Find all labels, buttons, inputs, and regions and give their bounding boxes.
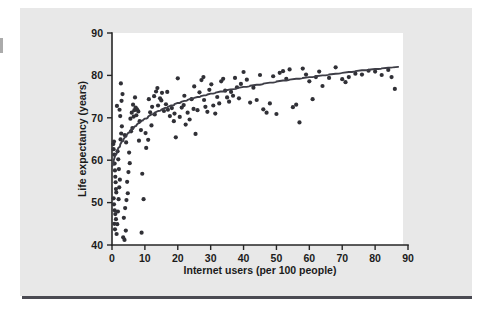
data-point	[233, 76, 237, 80]
data-point	[137, 139, 141, 143]
data-point	[258, 73, 262, 77]
x-tick-label: 30	[205, 252, 217, 264]
data-point	[193, 132, 197, 136]
data-point	[182, 94, 186, 98]
data-point	[128, 161, 132, 165]
data-point	[334, 65, 338, 69]
x-tick-label: 60	[303, 252, 315, 264]
x-tick-label: 50	[271, 252, 283, 264]
data-point	[202, 98, 206, 102]
data-point	[188, 117, 192, 121]
data-point	[307, 79, 311, 83]
data-point	[237, 96, 241, 100]
data-point	[122, 238, 126, 242]
data-point	[117, 185, 121, 189]
data-point	[178, 115, 182, 119]
data-point	[160, 91, 164, 95]
data-point	[274, 112, 278, 116]
data-point	[119, 99, 123, 103]
data-point	[140, 172, 144, 176]
data-point	[172, 119, 176, 123]
data-point	[174, 135, 178, 139]
data-point	[114, 180, 118, 184]
data-point	[172, 111, 176, 115]
x-tick-label: 40	[238, 252, 250, 264]
data-point	[159, 98, 163, 102]
data-point	[131, 103, 135, 107]
data-point	[320, 84, 324, 88]
y-tick-label: 50	[91, 196, 103, 208]
data-point	[291, 105, 295, 109]
data-point	[143, 131, 147, 135]
data-point	[304, 72, 308, 76]
data-point	[115, 232, 119, 236]
data-point	[168, 114, 172, 118]
data-point	[245, 78, 249, 82]
data-point	[115, 222, 119, 226]
data-point	[139, 128, 143, 132]
data-point	[201, 75, 205, 79]
data-point	[239, 82, 243, 86]
data-point	[301, 67, 305, 71]
y-tick-label: 40	[91, 239, 103, 251]
data-point	[221, 77, 225, 81]
data-point	[225, 95, 229, 99]
data-point	[215, 95, 219, 99]
data-point	[184, 122, 188, 126]
data-point	[152, 94, 156, 98]
data-point	[124, 140, 128, 144]
x-tick-label: 90	[402, 252, 414, 264]
data-point	[116, 197, 120, 201]
data-point	[122, 216, 126, 220]
data-point	[114, 217, 118, 221]
data-point	[217, 101, 221, 105]
data-point	[227, 100, 231, 104]
data-point	[311, 97, 315, 101]
data-point	[116, 157, 120, 161]
data-point	[141, 197, 145, 201]
data-point	[241, 70, 245, 74]
data-point	[112, 196, 116, 200]
data-point	[327, 76, 331, 80]
data-point	[209, 82, 213, 86]
data-point	[211, 103, 215, 107]
data-point	[123, 206, 127, 210]
data-point	[205, 110, 209, 114]
data-point	[264, 111, 268, 115]
data-point	[112, 139, 116, 143]
data-point	[149, 123, 153, 127]
data-point	[165, 90, 169, 94]
data-point	[126, 191, 130, 195]
y-axis: 405060708090	[91, 27, 112, 251]
x-tick-label: 10	[139, 252, 151, 264]
data-point	[116, 209, 120, 213]
data-point	[119, 81, 123, 85]
data-point	[117, 167, 121, 171]
x-tick-label: 20	[172, 252, 184, 264]
data-point	[231, 94, 235, 98]
data-point	[186, 111, 190, 115]
x-axis-title: Internet users (per 100 people)	[184, 264, 337, 276]
data-point	[176, 76, 180, 80]
data-point	[124, 228, 128, 232]
data-point	[347, 75, 351, 79]
data-point	[197, 90, 201, 94]
data-point	[146, 138, 150, 142]
data-point	[115, 104, 119, 108]
x-tick-label: 80	[369, 252, 381, 264]
data-point	[113, 168, 117, 172]
data-point	[203, 105, 207, 109]
data-point	[281, 69, 285, 73]
data-point	[113, 175, 117, 179]
data-point	[120, 124, 124, 128]
scatter-plot: 405060708090 0102030405060708090 Interne…	[0, 0, 490, 313]
data-point	[117, 108, 121, 112]
data-point	[133, 95, 137, 99]
data-point	[268, 101, 272, 105]
data-point	[294, 103, 298, 107]
data-point	[134, 113, 138, 117]
data-point	[297, 120, 301, 124]
data-point	[124, 198, 128, 202]
data-point	[127, 150, 131, 154]
figure-root: 405060708090 0102030405060708090 Interne…	[0, 0, 490, 313]
